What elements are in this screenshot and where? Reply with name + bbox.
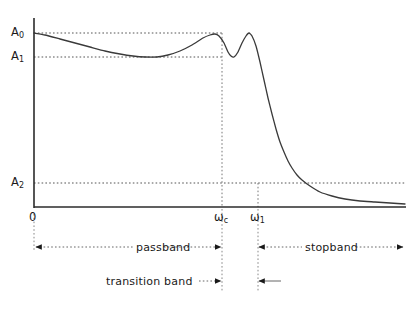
x-axis-label-origin: 0 (29, 212, 37, 224)
band-label-passband: passband (136, 242, 190, 253)
band-label-transition-band: transition band (106, 276, 193, 287)
band-label-stopband: stopband (305, 242, 358, 253)
x-axis-label-omega-c: ωc (214, 212, 228, 225)
y-axis-label-a1: A1 (11, 51, 24, 64)
y-axis-label-a2: A2 (11, 177, 24, 190)
y-axis-label-a0: A0 (11, 27, 24, 40)
x-axis-label-omega-1: ω1 (250, 212, 265, 225)
filter-response-figure: A0 A1 A2 0 ωc ω1 passband stopband trans… (0, 0, 411, 310)
plot-canvas (0, 0, 411, 310)
response-curve (34, 33, 405, 204)
